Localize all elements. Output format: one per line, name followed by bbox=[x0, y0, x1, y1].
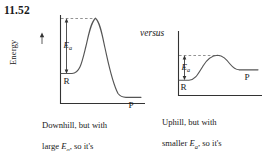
energy-axis-arrow bbox=[40, 33, 44, 45]
caption-uphill-line2-pre: smaller bbox=[162, 138, 189, 148]
uphill-reactant-label: R bbox=[181, 82, 188, 92]
downhill-activation-energy-label: Ea bbox=[63, 40, 73, 51]
caption-uphill-line1: Uphill, but with bbox=[162, 117, 217, 127]
versus-label: versus bbox=[140, 29, 164, 39]
caption-downhill: Downhill, but with large Ea, so it's slo… bbox=[42, 109, 147, 151]
diagram-uphill: Ea R P bbox=[179, 31, 263, 96]
energy-diagram-figure: 11.52 Energy Ea R bbox=[0, 0, 263, 151]
caption-downhill-line2-post: , so it's bbox=[70, 141, 94, 151]
downhill-product-label: P bbox=[129, 100, 134, 110]
diagram-downhill: Ea R P bbox=[61, 15, 146, 110]
uphill-product-label: P bbox=[245, 72, 250, 82]
caption-downhill-line1: Downhill, but with bbox=[42, 120, 107, 130]
uphill-activation-energy-label: Ea bbox=[181, 62, 191, 73]
downhill-energy-curve bbox=[61, 18, 141, 97]
caption-uphill: Uphill, but with smaller Ea, so it's fas… bbox=[162, 106, 262, 151]
downhill-reactant-label: R bbox=[64, 76, 71, 86]
caption-uphill-line2-post: , so it's bbox=[198, 138, 222, 148]
caption-downhill-line2-pre: large bbox=[42, 141, 61, 151]
